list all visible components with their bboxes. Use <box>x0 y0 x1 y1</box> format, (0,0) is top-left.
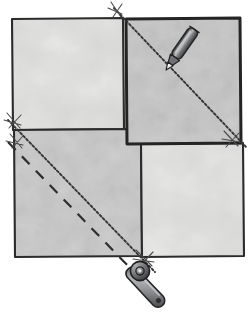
illustration-canvas: Marking and cutting fabric squares on th… <box>0 0 249 313</box>
top-left-fabric-square <box>12 18 124 130</box>
bottom-right-fabric-square <box>141 143 244 257</box>
top-left-fabric-fill <box>12 18 124 130</box>
rotary-cutter-hub-center <box>139 270 142 273</box>
bottom-right-fabric-fill <box>141 143 244 257</box>
rotary-cutter-end-screw <box>156 298 160 302</box>
fabric-diagram-svg <box>0 0 249 313</box>
rotary-cutter-icon <box>126 261 165 307</box>
